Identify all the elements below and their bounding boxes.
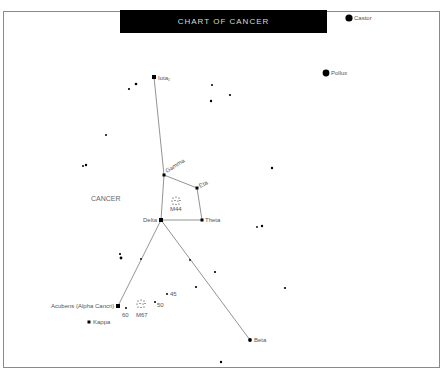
star-dot (229, 94, 231, 96)
label-delta: Delta (143, 217, 158, 223)
star-iota1[interactable] (152, 75, 156, 79)
star-dot (105, 134, 107, 136)
star-theta[interactable] (201, 219, 204, 222)
line-gamma-eta (164, 175, 197, 188)
constellation-label: CANCER (91, 195, 121, 202)
chart-title-bar: CHART OF CANCER (120, 10, 327, 33)
cluster-m44-icon[interactable] (171, 196, 180, 205)
star-dot (128, 88, 130, 90)
line-delta-acubens (118, 220, 161, 306)
label-m67: M67 (136, 312, 148, 318)
star-dot (189, 259, 191, 261)
star-dot (135, 83, 138, 86)
star-dot (82, 165, 84, 167)
unnamed-stars (82, 83, 286, 364)
chart-title: CHART OF CANCER (178, 17, 270, 26)
label-pollux: Pollux (331, 70, 347, 76)
star-50[interactable] (154, 301, 156, 303)
label-m44: M44 (170, 206, 182, 212)
label-eta: Eta (198, 179, 209, 189)
star-labels: Castor Pollux Iota₁ Gamma Eta Delta Thet… (51, 15, 372, 343)
cluster-m67-icon[interactable] (136, 299, 145, 308)
label-kappa: Kappa (93, 319, 111, 325)
star-dot (211, 84, 213, 86)
star-castor[interactable] (345, 14, 352, 21)
line-delta-beta (161, 220, 250, 340)
star-dot (85, 164, 87, 166)
star-60[interactable] (125, 307, 127, 309)
star-dot (261, 225, 263, 227)
star-eta[interactable] (196, 187, 199, 190)
star-dot (119, 253, 121, 255)
label-castor: Castor (354, 15, 372, 21)
star-acubens[interactable] (116, 304, 120, 308)
star-45[interactable] (166, 293, 168, 295)
line-eta-theta (197, 188, 202, 220)
label-acubens: Acubens (Alpha Cancri) (51, 303, 114, 309)
label-60: 60 (122, 312, 129, 318)
star-dot (195, 286, 197, 288)
line-gamma-delta (161, 175, 164, 220)
star-kappa[interactable] (88, 321, 91, 324)
star-dot (271, 167, 273, 169)
star-dot (256, 226, 258, 228)
star-beta[interactable] (248, 338, 252, 342)
star-dot (214, 271, 216, 273)
star-delta[interactable] (159, 218, 163, 222)
label-beta: Beta (254, 337, 267, 343)
star-pollux[interactable] (323, 70, 330, 77)
star-dot (120, 257, 123, 260)
star-chart: Castor Pollux Iota₁ Gamma Eta Delta Thet… (0, 0, 442, 376)
star-dot (140, 258, 142, 260)
label-gamma: Gamma (164, 157, 186, 174)
label-45: 45 (170, 291, 177, 297)
line-iota-gamma (154, 77, 164, 175)
star-dot (284, 287, 286, 289)
label-theta: Theta (205, 217, 221, 223)
star-dot (220, 361, 222, 363)
label-50: 50 (157, 302, 164, 308)
star-dot (210, 100, 212, 102)
star-gamma[interactable] (163, 174, 166, 177)
label-iota1: Iota₁ (158, 75, 170, 81)
named-stars (88, 14, 353, 342)
